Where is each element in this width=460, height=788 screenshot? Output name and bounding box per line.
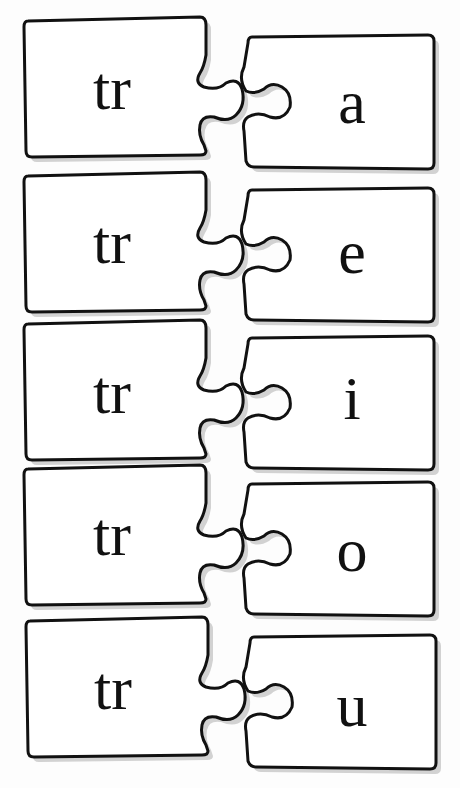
puzzle-piece-left-3[interactable] xyxy=(24,320,248,465)
puzzle-piece-left-2[interactable] xyxy=(24,172,248,317)
puzzle-worksheet: tr a tr e tr i tr o tr u xyxy=(0,0,460,788)
puzzle-piece-left-4[interactable] xyxy=(24,465,248,610)
puzzle-pieces-canvas xyxy=(0,0,460,788)
piece-label-left-5: tr xyxy=(94,657,132,719)
puzzle-piece-right-3[interactable] xyxy=(241,336,439,475)
piece-label-left-2: tr xyxy=(93,211,131,273)
piece-label-right-1: a xyxy=(338,71,366,133)
piece-label-right-4: o xyxy=(337,519,368,581)
piece-label-right-2: e xyxy=(338,221,366,283)
puzzle-piece-left-5[interactable] xyxy=(26,617,250,762)
piece-label-left-4: tr xyxy=(93,503,131,565)
piece-label-right-3: i xyxy=(343,367,360,429)
piece-label-right-5: u xyxy=(337,674,368,736)
piece-label-left-1: tr xyxy=(93,57,131,119)
piece-label-left-3: tr xyxy=(93,361,131,423)
puzzle-piece-left-1[interactable] xyxy=(24,17,248,162)
